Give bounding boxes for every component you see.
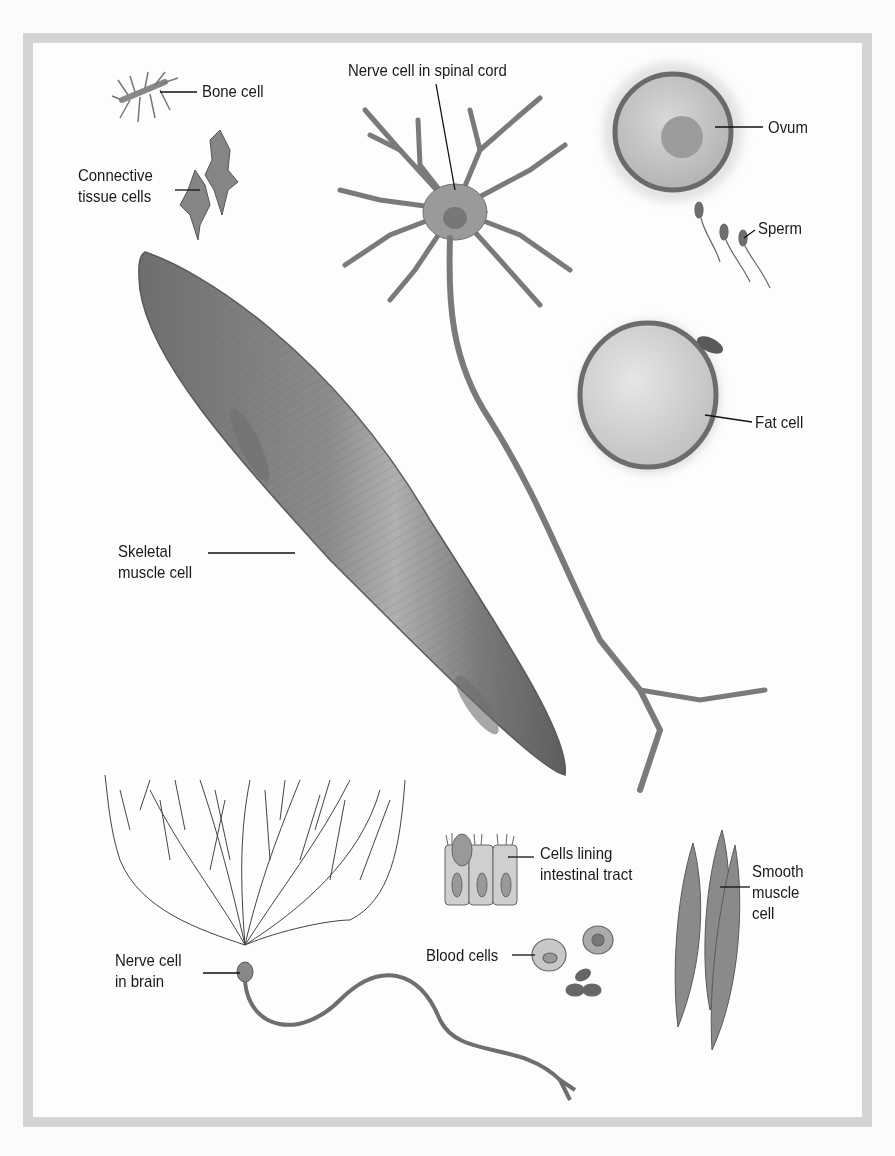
- label-line: Ovum: [768, 117, 808, 138]
- label-spinal-nerve-cell: Nerve cell in spinal cord: [348, 60, 507, 81]
- skeletal-muscle-cell-icon: [139, 252, 565, 775]
- label-smooth-muscle-cell: Smooth muscle cell: [752, 861, 804, 924]
- sperm-icon: [695, 202, 770, 288]
- bone-cell-icon: [112, 72, 178, 122]
- label-line: muscle: [752, 882, 804, 903]
- label-line: Skeletal: [118, 541, 192, 562]
- label-line: muscle cell: [118, 562, 192, 583]
- label-line: tissue cells: [78, 186, 153, 207]
- ovum-icon: [603, 62, 743, 202]
- label-line: Nerve cell in spinal cord: [348, 60, 507, 81]
- label-brain-nerve-cell: Nerve cell in brain: [115, 950, 182, 992]
- label-bone-cell: Bone cell: [202, 81, 264, 102]
- label-line: intestinal tract: [540, 864, 632, 885]
- label-line: in brain: [115, 971, 182, 992]
- label-ovum: Ovum: [768, 117, 808, 138]
- label-intestinal-cells: Cells lining intestinal tract: [540, 843, 632, 885]
- label-connective-tissue: Connective tissue cells: [78, 165, 153, 207]
- label-line: cell: [752, 903, 804, 924]
- label-line: Nerve cell: [115, 950, 182, 971]
- fat-cell-icon: [580, 321, 726, 473]
- label-line: Smooth: [752, 861, 804, 882]
- label-line: Cells lining: [540, 843, 632, 864]
- label-line: Fat cell: [755, 412, 803, 433]
- label-blood-cells: Blood cells: [426, 945, 498, 966]
- brain-nerve-cell-icon: [105, 775, 575, 1100]
- label-line: Connective: [78, 165, 153, 186]
- label-line: Sperm: [758, 218, 802, 239]
- connective-tissue-icon: [180, 130, 238, 240]
- label-fat-cell: Fat cell: [755, 412, 803, 433]
- label-sperm: Sperm: [758, 218, 802, 239]
- blood-cells-icon: [532, 926, 613, 996]
- label-skeletal-muscle-cell: Skeletal muscle cell: [118, 541, 192, 583]
- label-line: Blood cells: [426, 945, 498, 966]
- smooth-muscle-cell-icon: [675, 830, 740, 1050]
- intestinal-cells-icon: [445, 833, 517, 905]
- label-line: Bone cell: [202, 81, 264, 102]
